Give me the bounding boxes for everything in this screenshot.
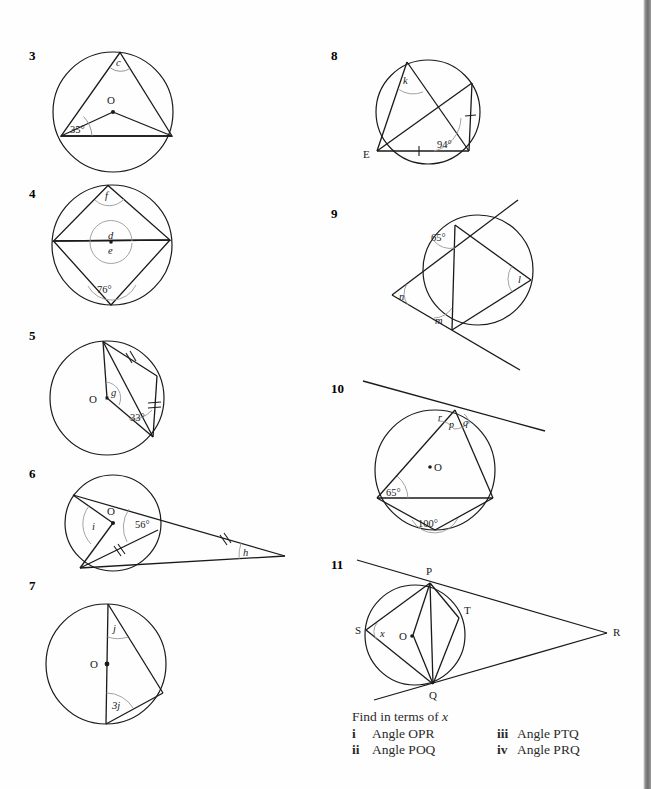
angle-arc-h bbox=[239, 543, 241, 559]
figure-9: 65° n m l bbox=[355, 195, 605, 380]
prompt-heading: Find in terms of x bbox=[352, 709, 642, 725]
centre-label: O bbox=[107, 505, 115, 517]
prompt-row: ii Angle POQ iv Angle PRQ bbox=[352, 742, 642, 758]
prompt-item-label: Angle POQ bbox=[372, 742, 435, 758]
question-number-4: 4 bbox=[29, 186, 36, 202]
question-number-5: 5 bbox=[29, 328, 36, 344]
chord-lower-right bbox=[452, 280, 531, 330]
chord-tangentpoint-left bbox=[377, 410, 455, 498]
prompt-item-label: Angle PTQ bbox=[517, 726, 579, 742]
question-number-8: 8 bbox=[331, 48, 338, 64]
centre-dot bbox=[106, 397, 109, 400]
angle-label-100: 100° bbox=[418, 518, 438, 529]
tangent-P-R bbox=[357, 560, 607, 633]
prompt-item-numeral: iv bbox=[497, 742, 517, 758]
centre-label: O bbox=[90, 658, 98, 670]
figure-11: O P Q R S T x bbox=[355, 555, 635, 705]
point-label-E: E bbox=[363, 148, 370, 160]
angle-arc-f bbox=[95, 199, 124, 206]
question-11-prompt: Find in terms of x i Angle OPR iii Angle… bbox=[352, 709, 642, 758]
prompt-item-ii: ii Angle POQ bbox=[352, 742, 497, 758]
prompt-item-iv: iv Angle PRQ bbox=[497, 742, 642, 758]
prompt-heading-variable: x bbox=[442, 709, 448, 724]
prompt-items-list: i Angle OPR iii Angle PTQ ii Angle POQ i… bbox=[352, 726, 642, 758]
centre-dot bbox=[410, 634, 414, 638]
centre-label: O bbox=[89, 393, 97, 405]
angle-label-i: i bbox=[92, 521, 95, 532]
secant-lower bbox=[80, 556, 285, 568]
angle-label-94: 94° bbox=[437, 139, 452, 150]
prompt-row: i Angle OPR iii Angle PTQ bbox=[352, 726, 642, 742]
angle-label-r: r bbox=[438, 412, 442, 423]
point-label-T: T bbox=[464, 604, 471, 616]
prompt-item-i: i Angle OPR bbox=[352, 726, 497, 742]
angle-label-f: f bbox=[105, 190, 110, 201]
question-number-3: 3 bbox=[29, 48, 36, 64]
angle-label-e: e bbox=[108, 245, 113, 256]
chord-bottom-right bbox=[435, 498, 493, 530]
centre-dot bbox=[111, 110, 115, 114]
figure-3: O c 35° bbox=[45, 40, 195, 190]
point-label-R: R bbox=[613, 626, 621, 638]
figure-7: O j 3j bbox=[48, 596, 198, 746]
centre-label: O bbox=[107, 94, 115, 106]
chord-S-P bbox=[366, 583, 430, 630]
angle-label-3j: 3j bbox=[111, 700, 120, 711]
chord-tangentpoint-right bbox=[455, 410, 493, 498]
radius-top bbox=[103, 342, 107, 399]
figure-4: f d e 76° bbox=[45, 178, 195, 328]
angle-label-x: x bbox=[379, 628, 385, 639]
tangent-lower bbox=[392, 295, 520, 370]
prompt-item-numeral: i bbox=[352, 726, 372, 742]
centre-label: O bbox=[434, 461, 442, 473]
centre-dot bbox=[428, 465, 432, 469]
angle-label-c: c bbox=[116, 57, 121, 68]
chord-E-topright bbox=[377, 83, 472, 151]
tangent-Q-R bbox=[374, 633, 607, 700]
angle-label-m: m bbox=[435, 315, 443, 326]
angle-arc-j bbox=[108, 637, 129, 639]
angle-label-h: h bbox=[243, 547, 248, 558]
point-label-S: S bbox=[355, 624, 361, 636]
prompt-item-numeral: iii bbox=[497, 726, 517, 742]
angle-label-q: q bbox=[463, 417, 468, 428]
centre-dot bbox=[105, 662, 110, 667]
chord-to-right bbox=[80, 530, 158, 568]
prompt-heading-text: Find in terms of bbox=[352, 709, 442, 724]
question-number-11: 11 bbox=[331, 557, 343, 573]
chord-vertical bbox=[452, 225, 455, 330]
figure-5: O g 33° bbox=[45, 320, 195, 475]
secant-upper bbox=[73, 495, 285, 556]
chord-P-Q bbox=[430, 583, 433, 684]
angle-label-56: 56° bbox=[135, 519, 150, 530]
angle-label-k: k bbox=[403, 75, 408, 86]
point-label-Q: Q bbox=[429, 689, 437, 701]
angle-label-g: g bbox=[111, 387, 116, 398]
radius-right bbox=[113, 112, 172, 136]
angle-label-l: l bbox=[518, 274, 521, 285]
figure-6: O i 56° h bbox=[45, 462, 305, 577]
angle-label-d: d bbox=[108, 230, 114, 241]
angle-label-p: p bbox=[448, 419, 454, 430]
angle-label-33: 33° bbox=[130, 412, 145, 423]
chord-top-right bbox=[108, 604, 163, 693]
tick-mark-right bbox=[465, 115, 476, 116]
angle-label-j: j bbox=[111, 623, 116, 634]
question-number-7: 7 bbox=[29, 578, 36, 594]
prompt-item-numeral: ii bbox=[352, 742, 372, 758]
page-edge-shadow bbox=[643, 0, 651, 789]
angle-arc-l bbox=[508, 266, 512, 292]
centre-dot bbox=[111, 521, 115, 525]
angle-label-65: 65° bbox=[386, 487, 401, 498]
angle-arc-35 bbox=[84, 117, 93, 137]
angle-label-n: n bbox=[399, 291, 404, 302]
radius-lower bbox=[80, 523, 113, 568]
tangent-line bbox=[363, 381, 545, 431]
centre-label: O bbox=[399, 630, 407, 642]
question-number-6: 6 bbox=[29, 466, 36, 482]
figure-10: O r p q 65° 100° bbox=[350, 378, 570, 563]
angle-label-65: 65° bbox=[431, 232, 446, 243]
prompt-item-iii: iii Angle PTQ bbox=[497, 726, 642, 742]
point-label-P: P bbox=[426, 565, 432, 577]
figure-8: E k 94° bbox=[355, 45, 515, 185]
